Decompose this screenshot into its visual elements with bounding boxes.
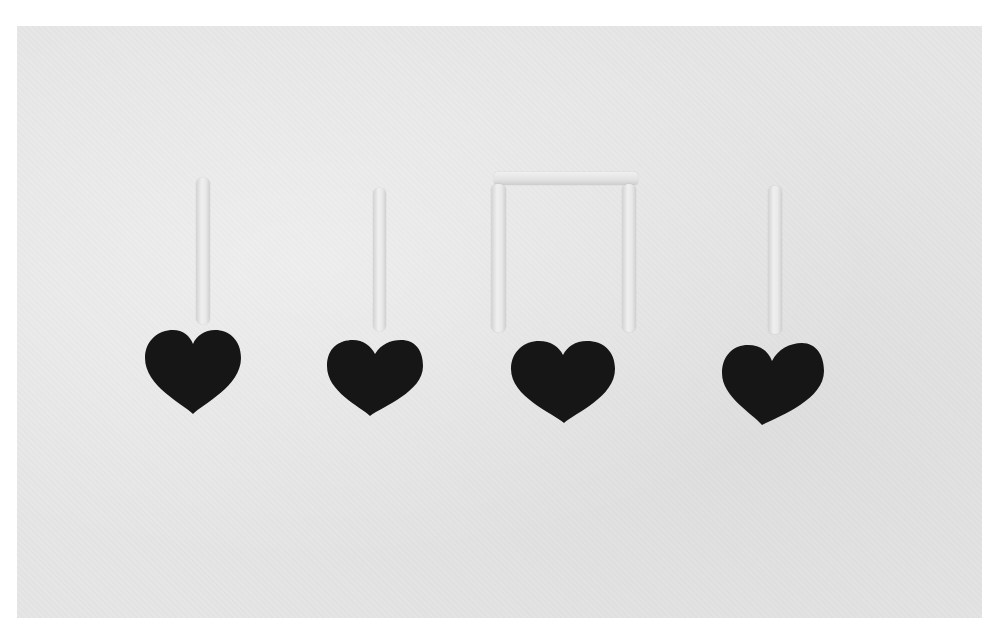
note-2-stem (373, 188, 386, 331)
note-1-heart-icon (143, 328, 243, 416)
note-3-right-stem (622, 184, 636, 332)
note-3-heart-icon (509, 339, 617, 425)
note-3-left-stem (491, 184, 506, 332)
note-4-stem (768, 186, 782, 334)
note-3-beam (494, 172, 638, 185)
note-4-heart-icon (720, 341, 826, 427)
note-1-stem (196, 178, 210, 324)
note-2-heart-icon (325, 336, 425, 418)
photo-background-fabric (17, 26, 982, 618)
